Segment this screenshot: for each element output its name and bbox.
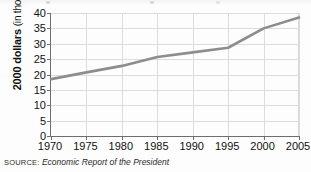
x-tick-label: 1970 [38,140,62,152]
y-tick-label: 30 [24,38,46,49]
y-tick-label: 10 [24,100,46,111]
plot-area [50,13,299,137]
x-tick-label: 2000 [250,140,274,152]
line-chart: 2000 dollars (in thousands) 051015202530… [0,0,311,172]
chart-figure-root: 2000 dollars (in thousands) 051015202530… [0,0,311,172]
x-tick-label: 1985 [144,140,168,152]
y-tick-label: 20 [24,69,46,80]
x-tick-label: 1995 [215,140,239,152]
y-tick-label: 35 [24,23,46,34]
series-polyline [51,18,299,80]
source-note: SOURCE: Economic Report of the President [4,157,169,167]
y-tick-label: 5 [24,115,46,126]
data-series-line [51,13,299,136]
x-tick-label: 1980 [109,140,133,152]
y-tick-label: 40 [24,8,46,19]
gridline-vertical [299,13,300,136]
x-tick-label: 2005 [286,140,310,152]
x-tick-label: 1990 [179,140,203,152]
y-tick-label: 25 [24,54,46,65]
source-label: SOURCE: [4,158,40,167]
x-tick-label: 1975 [73,140,97,152]
y-tick-label: 15 [24,84,46,95]
source-title: Economic Report of the President [42,157,169,167]
